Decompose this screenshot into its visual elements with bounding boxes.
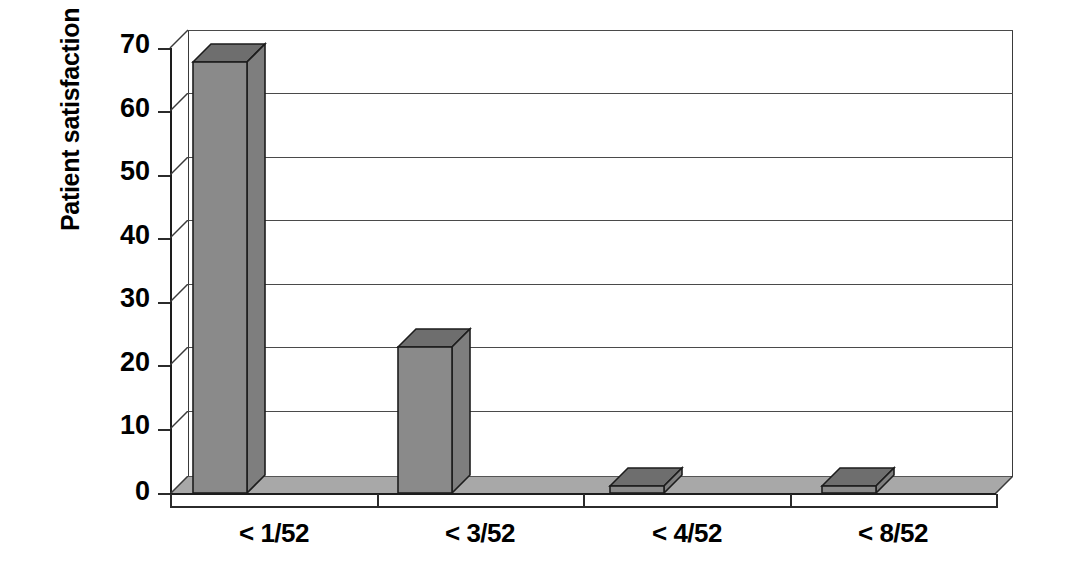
gridline-60 (188, 93, 1013, 94)
y-tick-label-30: 30 (90, 285, 150, 312)
grid-leader-10 (170, 411, 190, 431)
corner-diagonal-leader (170, 30, 190, 50)
gridline-20 (188, 347, 1013, 348)
gridline-40 (188, 220, 1013, 221)
bar-category-0[interactable] (191, 22, 291, 502)
x-tick-3 (790, 494, 792, 508)
grid-leader-50 (170, 157, 190, 177)
y-tick-label-20: 20 (90, 349, 150, 376)
y-tick-label-60: 60 (90, 95, 150, 122)
grid-leader-60 (170, 93, 190, 113)
grid-leader-30 (170, 284, 190, 304)
y-tick-label-40: 40 (90, 222, 150, 249)
y-tick-label-10: 10 (90, 412, 150, 439)
gridline-10 (188, 411, 1013, 412)
bar-category-3[interactable] (820, 457, 920, 517)
x-tick-0 (170, 494, 172, 508)
grid-leader-20 (170, 347, 190, 367)
x-tick-2 (583, 494, 585, 508)
x-tick-4 (996, 494, 998, 508)
x-tick-1 (377, 494, 379, 508)
bar-category-2[interactable] (608, 457, 708, 517)
y-tick-label-50: 50 (90, 158, 150, 185)
x-tick-label-2: < 4/52 (587, 518, 787, 549)
y-tick-label-0: 0 (90, 478, 150, 505)
x-tick-label-3: < 8/52 (793, 518, 993, 549)
x-tick-label-1: < 3/52 (380, 518, 580, 549)
grid-leader-40 (170, 220, 190, 240)
gridline-30 (188, 284, 1013, 285)
x-tick-label-0: < 1/52 (174, 518, 374, 549)
bar-category-1[interactable] (396, 308, 496, 508)
bar-chart: Patient satisfaction rating (%) 70 60 50… (0, 0, 1065, 574)
gridline-50 (188, 157, 1013, 158)
y-axis-tick-labels: 70 60 50 40 30 20 10 0 (88, 0, 150, 574)
y-tick-label-70: 70 (90, 31, 150, 58)
back-wall-right-edge (1012, 30, 1013, 476)
y-axis-title: Patient satisfaction rating (%) (50, 0, 90, 280)
gridline-70 (188, 30, 1013, 31)
